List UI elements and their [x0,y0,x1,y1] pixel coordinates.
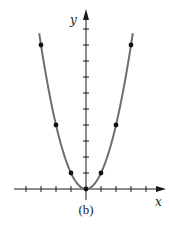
data-point [69,171,74,176]
data-point [39,43,44,48]
data-point [99,171,104,176]
y-axis-label: y [69,13,77,27]
data-point [129,43,134,48]
figure-caption: (b) [78,202,93,217]
data-point [54,123,59,128]
parabola-chart: y x (b) [0,0,169,225]
y-axis-arrow-icon [83,9,89,20]
data-point [84,187,89,192]
axes [14,9,166,200]
x-axis-arrow-icon [156,186,166,192]
x-axis-label: x [155,195,162,209]
data-point [114,123,119,128]
